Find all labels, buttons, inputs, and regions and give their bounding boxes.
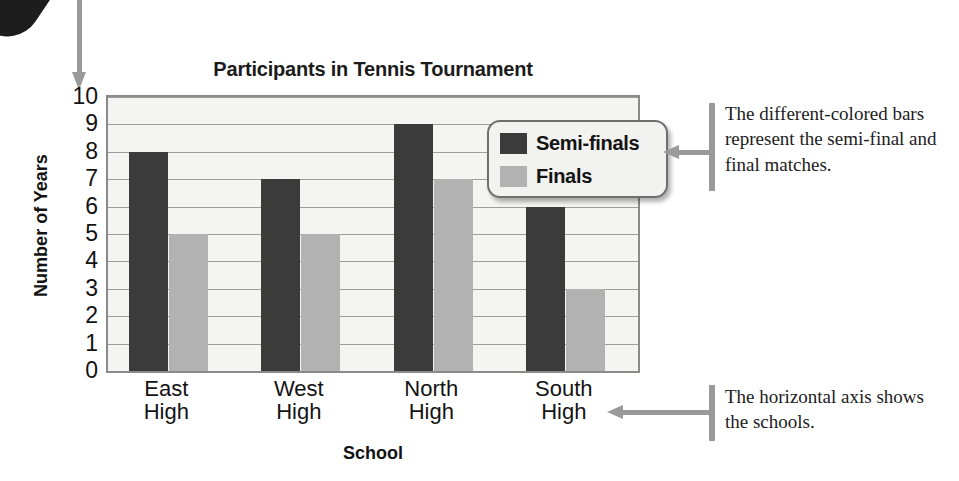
y-axis-title: Number of Years: [31, 136, 52, 316]
x-tick-label-west-high: WestHigh: [233, 377, 366, 424]
bar-west-high-semi-finals: [261, 179, 300, 371]
bar-north-high-semi-finals: [394, 124, 433, 371]
x-tick-label-line: High: [233, 400, 366, 423]
y-tick-label: 6: [52, 195, 98, 218]
x-tick-label-line: East: [100, 377, 233, 400]
legend-swatch-icon: [500, 133, 527, 154]
legend-entry-finals[interactable]: Finals: [500, 160, 666, 193]
chart-page: Participants in Tennis Tournament Number…: [0, 0, 959, 481]
y-axis-tick-labels: 109876543210: [52, 82, 98, 400]
x-axis-title: School: [106, 443, 640, 464]
bar-west-high-finals: [301, 234, 340, 371]
x-tick-label-east-high: EastHigh: [100, 377, 233, 424]
x-tick-label-line: High: [365, 400, 498, 423]
bar-south-high-finals: [566, 289, 605, 371]
y-tick-label: 2: [52, 304, 98, 327]
x-tick-label-line: West: [233, 377, 366, 400]
legend-entry-semi[interactable]: Semi-finals: [500, 127, 666, 160]
corner-decoration: [0, 0, 56, 50]
bar-east-high-semi-finals: [129, 152, 168, 371]
y-tick-label: 7: [52, 167, 98, 190]
title-pointer-arrow-icon: [72, 0, 86, 92]
y-tick-label: 4: [52, 249, 98, 272]
arrow-shaft: [677, 150, 711, 155]
y-tick-label: 9: [52, 112, 98, 135]
y-tick-label: 5: [52, 222, 98, 245]
x-axis-tick-labels: EastHighWestHighNorthHighSouthHigh: [106, 377, 640, 439]
bar-south-high-semi-finals: [526, 207, 565, 371]
x-tick-label-line: High: [100, 400, 233, 423]
y-tick-label: 3: [52, 277, 98, 300]
axis-note-text: The horizontal axis shows the schools.: [725, 384, 951, 435]
x-tick-label-north-high: NorthHigh: [365, 377, 498, 424]
y-tick-label: 10: [52, 85, 98, 108]
y-tick-label: 0: [52, 359, 98, 382]
arrow-head: [663, 145, 679, 159]
arrow-shaft: [77, 0, 82, 76]
bar-east-high-finals: [169, 234, 208, 371]
x-tick-label-line: South: [498, 377, 631, 400]
legend-label: Finals: [536, 165, 592, 188]
bar-north-high-finals: [434, 179, 473, 371]
chart-legend: Semi-finalsFinals: [487, 120, 668, 198]
chart-title: Participants in Tennis Tournament: [106, 58, 640, 81]
arrow-head: [607, 405, 623, 419]
legend-label: Semi-finals: [536, 132, 639, 155]
axis-note-arrow-icon: [607, 405, 711, 419]
x-tick-label-line: North: [365, 377, 498, 400]
legend-note-text: The different-colored bars represent the…: [725, 101, 951, 177]
legend-note-arrow-icon: [663, 145, 711, 159]
arrow-shaft: [621, 410, 711, 415]
legend-swatch-icon: [500, 166, 527, 187]
y-tick-label: 8: [52, 140, 98, 163]
y-tick-label: 1: [52, 332, 98, 355]
